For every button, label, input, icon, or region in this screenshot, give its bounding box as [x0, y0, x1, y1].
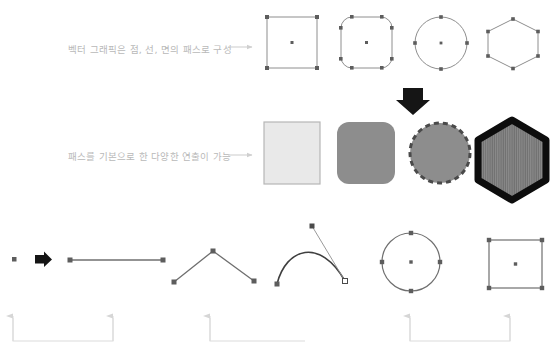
- straight-line-path: [68, 258, 166, 263]
- circle-closed-path: [380, 231, 442, 293]
- angular-polyline-path: [172, 249, 257, 285]
- square-closed-path: [487, 238, 544, 290]
- rounded-square-fill-gray: [337, 122, 395, 184]
- square-path: [265, 15, 319, 70]
- hexagon-fill-striped: [478, 120, 546, 200]
- bracket-line: [210, 316, 305, 341]
- diagram-graphics: [0, 0, 556, 357]
- scalloped-circle-fill: [410, 123, 470, 183]
- bracket-surface: [410, 316, 510, 341]
- rounded-square-path: [339, 15, 394, 70]
- hexagon-path: [486, 17, 540, 70]
- circle-path: [413, 15, 469, 71]
- bracket-point: [13, 316, 113, 341]
- diagram-canvas: 벡터 그래픽은 점, 선, 면의 패스로 구성 패스를 기본으로 한 다양한 연…: [0, 0, 556, 357]
- single-point: [12, 257, 17, 262]
- square-fill-light: [264, 122, 320, 184]
- point-to-line-arrow-icon: [35, 252, 52, 268]
- down-arrow-icon: [396, 88, 430, 115]
- bezier-curve-path: [275, 224, 348, 287]
